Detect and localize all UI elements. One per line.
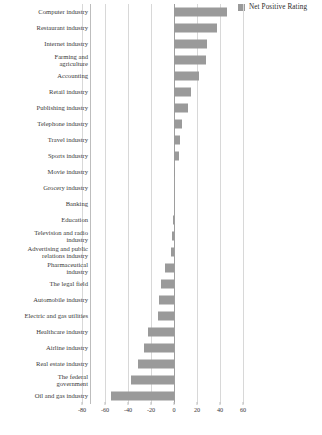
bar	[131, 376, 174, 385]
category-label: Television and radio industry	[34, 229, 88, 244]
category-label: Restaurant industry	[37, 24, 88, 31]
tickmark-60	[243, 402, 244, 405]
x-axis-tick-labels: -80-60-40-200204060	[0, 406, 322, 420]
bar	[174, 88, 191, 97]
bar-row: Farming and agriculture	[0, 52, 322, 68]
bar	[174, 40, 207, 49]
x-tick-label: 20	[194, 406, 200, 413]
bar-row: Accounting	[0, 68, 322, 84]
bar	[174, 104, 188, 113]
category-label: Real estate industry	[36, 360, 88, 367]
bar-row: Retail industry	[0, 84, 322, 100]
bar-row: Education	[0, 212, 322, 228]
bar-row: Restaurant industry	[0, 20, 322, 36]
bar-row: Automobile industry	[0, 292, 322, 308]
bar	[161, 280, 174, 289]
tickmark-0	[174, 402, 175, 405]
category-label: The federal government	[57, 373, 89, 388]
bar-row: Telephone industry	[0, 116, 322, 132]
bar-row: Banking	[0, 196, 322, 212]
x-tick-label: -40	[124, 406, 132, 413]
bar	[174, 120, 182, 129]
bar-row: Computer industry	[0, 4, 322, 20]
bar-row: Electric and gas utilities	[0, 308, 322, 324]
bar-row: Real estate industry	[0, 356, 322, 372]
bar	[111, 392, 174, 401]
bar-row: Movie industry	[0, 164, 322, 180]
bar	[144, 344, 174, 353]
bar	[138, 360, 174, 369]
category-label: Publishing industry	[37, 104, 88, 111]
category-label: The legal field	[50, 280, 88, 287]
bar	[174, 72, 199, 81]
category-label: Electric and gas utilities	[24, 312, 88, 319]
category-label: Pharmaceutical industry	[47, 261, 88, 276]
category-label: Automobile industry	[33, 296, 88, 303]
bar	[174, 136, 180, 145]
category-label: Internet industry	[44, 40, 88, 47]
bar	[159, 296, 174, 305]
category-label: Retail industry	[49, 88, 88, 95]
x-tick-label: -60	[101, 406, 109, 413]
bar-row: Television and radio industry	[0, 228, 322, 244]
category-label: Grocery industry	[43, 184, 88, 191]
category-label: Travel industry	[48, 136, 88, 143]
x-tick-label: -80	[78, 406, 86, 413]
bar	[171, 248, 174, 257]
tickmark-20	[197, 402, 198, 405]
x-tick-label: 60	[240, 406, 246, 413]
category-label: Advertising and public relations industr…	[28, 245, 88, 260]
bar-row: Healthcare industry	[0, 324, 322, 340]
bar-row: Publishing industry	[0, 100, 322, 116]
tickmark--80	[82, 402, 83, 405]
category-label: Banking	[66, 200, 88, 207]
bar	[174, 56, 206, 65]
category-label: Healthcare industry	[36, 328, 88, 335]
bar	[172, 232, 174, 241]
tickmark--20	[151, 402, 152, 405]
bar	[148, 328, 174, 337]
x-tick-label: -20	[147, 406, 155, 413]
bar-row: Grocery industry	[0, 180, 322, 196]
bar-row: Airline industry	[0, 340, 322, 356]
category-label: Movie industry	[48, 168, 88, 175]
category-label: Airline industry	[46, 344, 88, 351]
bar-row: Internet industry	[0, 36, 322, 52]
category-label: Sports industry	[48, 152, 88, 159]
bar	[174, 168, 175, 177]
x-tick-label: 40	[217, 406, 223, 413]
category-label: Accounting	[57, 72, 88, 79]
bar	[173, 216, 174, 225]
tickmark--40	[128, 402, 129, 405]
bar-row: Advertising and public relations industr…	[0, 244, 322, 260]
bar-row: The federal government	[0, 372, 322, 388]
bar-row: Sports industry	[0, 148, 322, 164]
bar-chart: Net Positive Rating Computer industryRes…	[0, 0, 322, 435]
category-label: Education	[61, 216, 88, 223]
category-label: Computer industry	[38, 8, 88, 15]
bar	[174, 152, 179, 161]
bar	[174, 8, 227, 17]
bar	[165, 264, 174, 273]
x-tick-label: 0	[172, 406, 175, 413]
bar	[158, 312, 174, 321]
bar	[174, 24, 217, 33]
plot-area: Computer industryRestaurant industryInte…	[0, 4, 322, 404]
bar-row: Travel industry	[0, 132, 322, 148]
bar-row: Pharmaceutical industry	[0, 260, 322, 276]
category-label: Telephone industry	[37, 120, 88, 127]
bar-row: The legal field	[0, 276, 322, 292]
category-label: Oil and gas industry	[35, 392, 88, 399]
tickmark--60	[105, 402, 106, 405]
bar-rows: Computer industryRestaurant industryInte…	[0, 4, 322, 404]
category-label: Farming and agriculture	[54, 53, 88, 68]
bar-row: Oil and gas industry	[0, 388, 322, 404]
tickmark-40	[220, 402, 221, 405]
